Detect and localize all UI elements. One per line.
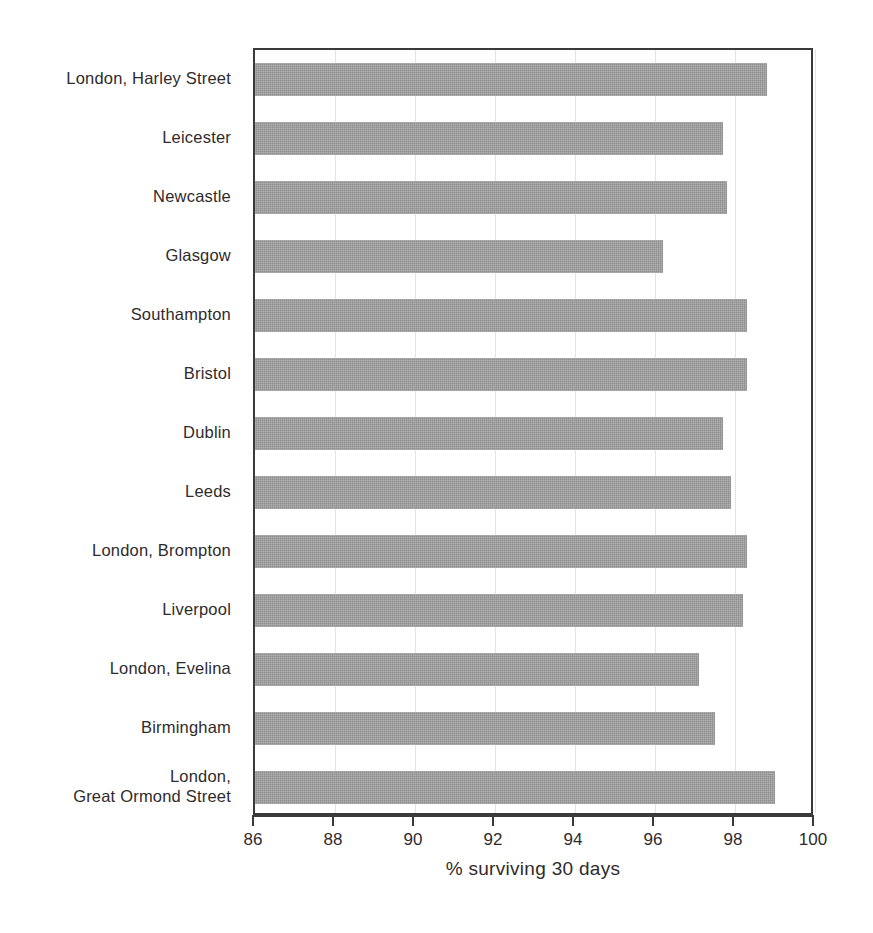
bar-row	[255, 581, 811, 640]
bar[interactable]	[255, 122, 723, 155]
bar-row	[255, 640, 811, 699]
category-label-line: Birmingham	[0, 717, 231, 737]
bar[interactable]	[255, 181, 727, 214]
x-tick-mark	[412, 815, 414, 826]
category-label: Glasgow	[0, 245, 231, 265]
bar-row	[255, 168, 811, 227]
x-tick-mark	[812, 815, 814, 826]
bar-row	[255, 109, 811, 168]
bar-row	[255, 404, 811, 463]
bar-row	[255, 345, 811, 404]
bar-row	[255, 758, 811, 817]
bar-chart-figure: London, Harley StreetLeicesterNewcastleG…	[0, 0, 873, 933]
x-tick-label: 86	[223, 830, 283, 850]
x-tick-label: 100	[783, 830, 843, 850]
bar[interactable]	[255, 299, 747, 332]
bar-row	[255, 50, 811, 109]
bar-row	[255, 286, 811, 345]
x-tick-mark	[252, 815, 254, 826]
bar[interactable]	[255, 63, 767, 96]
category-label: Birmingham	[0, 717, 231, 737]
category-label: London, Evelina	[0, 658, 231, 678]
bar[interactable]	[255, 476, 731, 509]
x-tick-label: 94	[543, 830, 603, 850]
bar-row	[255, 699, 811, 758]
category-label-line: London, Harley Street	[0, 68, 231, 88]
category-label-line: Southampton	[0, 304, 231, 324]
category-label-line: London, Evelina	[0, 658, 231, 678]
category-label-line: Dublin	[0, 422, 231, 442]
bar-row	[255, 227, 811, 286]
category-label: Dublin	[0, 422, 231, 442]
bar-row	[255, 522, 811, 581]
x-tick-mark	[732, 815, 734, 826]
category-label: Leeds	[0, 481, 231, 501]
category-label: Southampton	[0, 304, 231, 324]
bar[interactable]	[255, 653, 699, 686]
x-tick-label: 90	[383, 830, 443, 850]
gridline	[815, 50, 816, 813]
category-label: London, Brompton	[0, 540, 231, 560]
category-axis-labels: London, Harley StreetLeicesterNewcastleG…	[0, 48, 243, 815]
category-label-line: London,	[0, 766, 231, 786]
category-label-line: Glasgow	[0, 245, 231, 265]
bar[interactable]	[255, 712, 715, 745]
x-tick-mark	[332, 815, 334, 826]
x-tick-mark	[492, 815, 494, 826]
bar[interactable]	[255, 535, 747, 568]
bar[interactable]	[255, 240, 663, 273]
bar[interactable]	[255, 771, 775, 804]
x-tick-label: 96	[623, 830, 683, 850]
plot-area	[253, 48, 813, 815]
chart-page: London, Harley StreetLeicesterNewcastleG…	[0, 0, 873, 933]
category-label-line: Newcastle	[0, 186, 231, 206]
category-label-line: Leicester	[0, 127, 231, 147]
category-label: Newcastle	[0, 186, 231, 206]
bar[interactable]	[255, 358, 747, 391]
bar[interactable]	[255, 417, 723, 450]
x-axis-line	[253, 815, 813, 817]
bar[interactable]	[255, 594, 743, 627]
category-label: Leicester	[0, 127, 231, 147]
category-label-line: Bristol	[0, 363, 231, 383]
x-axis: 86889092949698100	[253, 815, 813, 816]
category-label: Liverpool	[0, 599, 231, 619]
bar-row	[255, 463, 811, 522]
x-axis-title: % surviving 30 days	[253, 858, 813, 880]
category-label-line: London, Brompton	[0, 540, 231, 560]
x-tick-mark	[572, 815, 574, 826]
x-tick-label: 88	[303, 830, 363, 850]
category-label-line: Liverpool	[0, 599, 231, 619]
category-label: London,Great Ormond Street	[0, 766, 231, 806]
x-tick-label: 92	[463, 830, 523, 850]
category-label: Bristol	[0, 363, 231, 383]
category-label: London, Harley Street	[0, 68, 231, 88]
x-tick-mark	[652, 815, 654, 826]
x-tick-label: 98	[703, 830, 763, 850]
category-label-line: Great Ormond Street	[0, 786, 231, 806]
category-label-line: Leeds	[0, 481, 231, 501]
